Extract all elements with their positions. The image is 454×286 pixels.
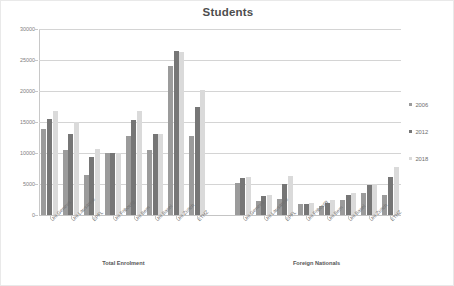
legend-swatch-icon (409, 103, 412, 106)
legend-label: 2018 (415, 156, 428, 162)
bar-group (187, 29, 208, 215)
y-tick-mark (35, 91, 38, 92)
bar-group (253, 29, 274, 215)
x-tick-mark (71, 216, 72, 219)
y-tick-label: 5000 (3, 181, 35, 187)
bar[interactable] (367, 185, 372, 215)
chart-title: Students (1, 6, 454, 18)
y-tick-label: 30000 (3, 26, 35, 32)
bar-group (338, 29, 359, 215)
bar[interactable] (137, 111, 142, 215)
y-tick-mark (35, 153, 38, 154)
legend-swatch-icon (409, 130, 412, 133)
bar-group (232, 29, 253, 215)
bar[interactable] (47, 119, 52, 215)
x-tick-mark (197, 216, 198, 219)
legend-item[interactable]: 2018 (409, 155, 453, 162)
y-tick-mark (35, 29, 38, 30)
x-tick-mark (369, 216, 370, 219)
bar[interactable] (174, 51, 179, 215)
bar[interactable] (179, 52, 184, 215)
legend-item[interactable]: 2006 (409, 101, 453, 108)
chart-legend: 200620122018 (409, 101, 453, 182)
bar[interactable] (74, 122, 79, 215)
bar-group (166, 29, 187, 215)
bar[interactable] (200, 90, 205, 215)
legend-label: 2006 (415, 102, 428, 108)
legend-label: 2012 (415, 129, 428, 135)
x-tick-mark (390, 216, 391, 219)
x-axis-labels: Uni GenevaUni LausanneEPFLUni FribourgUn… (39, 216, 401, 258)
bar[interactable] (298, 204, 303, 215)
y-tick-label: 10000 (3, 150, 35, 156)
chart-container: Students 050001000015000200002500030000 … (0, 0, 454, 286)
x-tick-mark (92, 216, 93, 219)
legend-swatch-icon (409, 157, 412, 160)
bar-group (274, 29, 295, 215)
bar-group (359, 29, 380, 215)
x-tick-mark (113, 216, 114, 219)
y-tick-mark (35, 122, 38, 123)
y-tick-label: 15000 (3, 119, 35, 125)
bar-group (60, 29, 81, 215)
bar[interactable] (158, 134, 163, 215)
bar[interactable] (235, 183, 240, 215)
x-tick-mark (264, 216, 265, 219)
bar-group (380, 29, 401, 215)
x-tick-mark (243, 216, 244, 219)
bar-group (145, 29, 166, 215)
bar[interactable] (95, 149, 100, 215)
x-tick-mark (327, 216, 328, 219)
y-tick-mark (35, 215, 38, 216)
x-tick-mark (176, 216, 177, 219)
x-tick-mark (285, 216, 286, 219)
x-tick-mark (306, 216, 307, 219)
plot-area (39, 29, 401, 215)
y-tick-label: 25000 (3, 57, 35, 63)
bar[interactable] (388, 177, 393, 215)
bar[interactable] (195, 107, 200, 215)
bar[interactable] (116, 153, 121, 215)
bar-group (317, 29, 338, 215)
bar-group (295, 29, 316, 215)
bar[interactable] (153, 134, 158, 215)
y-tick-mark (35, 60, 38, 61)
y-tick-label: 0 (3, 212, 35, 218)
x-tick-mark (134, 216, 135, 219)
y-tick-label: 20000 (3, 88, 35, 94)
bar[interactable] (105, 153, 110, 215)
bar[interactable] (110, 153, 115, 215)
x-tick-mark (348, 216, 349, 219)
bar[interactable] (41, 129, 46, 215)
x-tick-mark (155, 216, 156, 219)
bar[interactable] (53, 111, 58, 215)
bar-group (102, 29, 123, 215)
y-tick-mark (35, 184, 38, 185)
bar-group (81, 29, 102, 215)
group-label: Foreign Nationals (267, 260, 367, 266)
bar[interactable] (168, 66, 173, 215)
x-tick-mark (50, 216, 51, 219)
legend-item[interactable]: 2012 (409, 128, 453, 135)
bar[interactable] (240, 178, 245, 215)
y-axis: 050001000015000200002500030000 (1, 29, 35, 215)
bar[interactable] (346, 195, 351, 215)
group-label: Total Enrolment (73, 260, 173, 266)
bar-group (123, 29, 144, 215)
bar-group (39, 29, 60, 215)
